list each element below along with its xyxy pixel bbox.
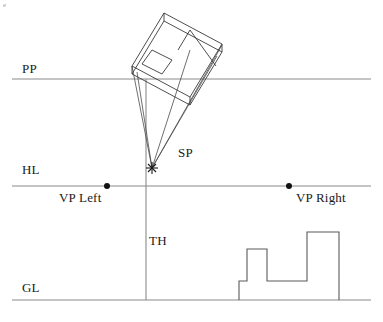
plan-inner-window [142, 50, 172, 74]
sight-ray-2 [137, 72, 152, 168]
label-vp-left: VP Left [59, 191, 101, 204]
label-th: TH [149, 234, 167, 247]
plan-divider-line [190, 30, 216, 66]
sight-ray-1 [132, 66, 152, 168]
plan-divider-line-2 [178, 30, 190, 50]
label-sp: SP [178, 146, 193, 159]
label-vp-right: VP Right [296, 191, 346, 204]
diagram-canvas [0, 0, 383, 322]
label-pp: PP [22, 62, 37, 75]
vp-left-point [104, 183, 110, 189]
station-point-marker [146, 162, 158, 174]
perspective-diagram: e [0, 0, 383, 322]
label-gl: GL [22, 281, 40, 294]
vp-right-point [286, 183, 292, 189]
elevation-profile [239, 232, 339, 300]
label-hl: HL [22, 163, 40, 176]
